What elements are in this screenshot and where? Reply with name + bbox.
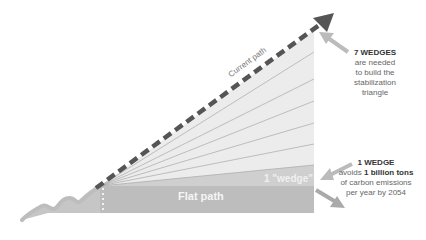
callout-line: triangle <box>335 88 415 98</box>
callout-line: to build the <box>335 68 415 78</box>
callout-line: of carbon emissions <box>330 178 422 188</box>
one-wedge-callout: 1 WEDGE avoids 1 billion tons of carbon … <box>330 158 422 198</box>
callout-line: per year by 2054 <box>330 188 422 198</box>
callout-emphasis: 1 billion tons <box>364 168 413 177</box>
callout-text: avoids <box>339 168 364 177</box>
seven-wedges-callout: 7 WEDGES are needed to build the stabili… <box>335 48 415 98</box>
callout-line: are needed <box>335 58 415 68</box>
flat-path-label: Flat path <box>178 190 224 202</box>
one-wedge-label: 1 "wedge" <box>264 173 313 184</box>
callout-line: stabilization <box>335 78 415 88</box>
callout-heading: 7 WEDGES <box>354 48 396 57</box>
callout-heading: 1 WEDGE <box>358 158 395 167</box>
